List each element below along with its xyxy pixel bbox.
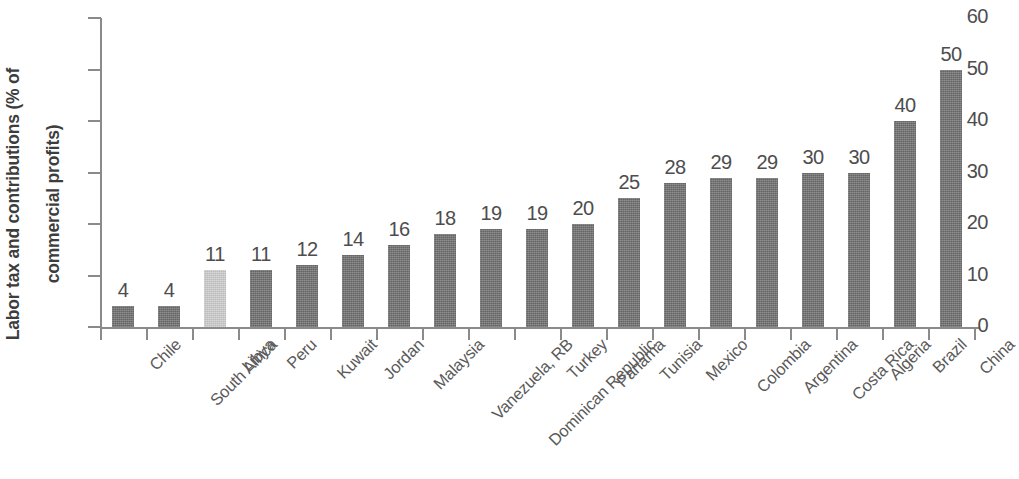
bar-group[interactable]: 18	[422, 18, 468, 327]
x-axis-label-kuwait: Kuwait	[333, 335, 381, 383]
bar-chile[interactable]	[112, 306, 134, 327]
bar-algeria[interactable]	[848, 173, 870, 328]
bar-peru[interactable]	[250, 270, 272, 327]
x-axis-label-brazil: Brazil	[929, 335, 971, 377]
bar-libya[interactable]	[204, 270, 226, 327]
bar-china[interactable]	[940, 70, 962, 328]
bar-turkey[interactable]	[526, 229, 548, 327]
bar-group[interactable]: 11	[238, 18, 284, 327]
bar-group[interactable]: 14	[330, 18, 376, 327]
bar-tunisia[interactable]	[618, 198, 640, 327]
bar-value-label: 50	[918, 43, 984, 66]
x-axis-label-peru: Peru	[283, 335, 321, 373]
bar-costa-rica[interactable]	[802, 173, 824, 328]
y-axis-title-line2: commercial profits)	[43, 125, 63, 284]
bar-jordan[interactable]	[342, 255, 364, 327]
bar-malaysia[interactable]	[388, 245, 410, 327]
bar-group[interactable]: 30	[836, 18, 882, 327]
bar-panama[interactable]	[572, 224, 594, 327]
bar-group[interactable]: 11	[192, 18, 238, 327]
x-axis-label-jordan: Jordan	[379, 335, 427, 383]
x-axis-label-chile: Chile	[146, 335, 185, 374]
x-axis-label-malaysia: Malaysia	[430, 335, 488, 393]
bar-kuwait[interactable]	[296, 265, 318, 327]
bar-group[interactable]: 29	[744, 18, 790, 327]
bar-south-africa[interactable]	[158, 306, 180, 327]
bar-mexico[interactable]	[664, 183, 686, 327]
bar-argentina[interactable]	[756, 178, 778, 327]
bar-group[interactable]: 19	[468, 18, 514, 327]
y-axis-title-line1: Labor tax and contributions (% of	[3, 68, 23, 340]
x-axis-label-china: China	[975, 335, 1018, 378]
bar-group[interactable]: 19	[514, 18, 560, 327]
y-axis-title: Labor tax and contributions (% of commer…	[0, 44, 63, 364]
bar-colombia[interactable]	[710, 178, 732, 327]
bar-group[interactable]: 50	[928, 18, 974, 327]
x-axis-label-vanezuela-rb: Vanezuela, RB	[488, 335, 577, 424]
bar-group[interactable]: 12	[284, 18, 330, 327]
bar-vanezuela-rb[interactable]	[434, 234, 456, 327]
x-axis-labels: ChileSouth AfricaLibyaPeruKuwaitJordanMa…	[100, 327, 980, 479]
x-axis-label-mexico: Mexico	[702, 335, 752, 385]
bar-group[interactable]: 30	[790, 18, 836, 327]
bar-group[interactable]: 4	[146, 18, 192, 327]
bars-area: 441111121416181919202528292930304050	[100, 18, 980, 327]
bar-group[interactable]: 16	[376, 18, 422, 327]
bar-dominican-republic[interactable]	[480, 229, 502, 327]
bar-brazil[interactable]	[894, 121, 916, 327]
